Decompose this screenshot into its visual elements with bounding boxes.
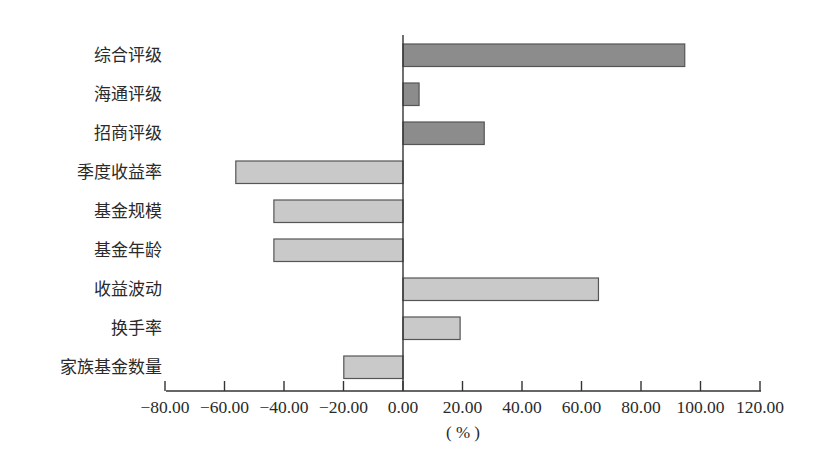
bar-2	[403, 83, 419, 106]
horizontal-bar-chart: 综合评级海通评级招商评级季度收益率基金规模基金年龄收益波动换手率家族基金数量 −…	[0, 0, 826, 465]
bar-7	[403, 278, 598, 301]
category-label: 基金规模	[94, 201, 162, 221]
category-label: 综合评级	[94, 45, 162, 65]
x-tick-label: −20.00	[319, 397, 368, 417]
x-tick-label: −60.00	[200, 397, 249, 417]
x-axis-unit-label: ( % )	[446, 423, 480, 442]
category-label: 家族基金数量	[60, 357, 162, 377]
bar-9	[344, 356, 403, 379]
bar-6	[274, 239, 403, 262]
x-axis-ticks	[165, 381, 760, 391]
category-label: 海通评级	[94, 84, 162, 104]
x-tick-label: 80.00	[621, 397, 661, 417]
bar-1	[403, 44, 685, 67]
x-tick-label: 20.00	[443, 397, 483, 417]
category-label: 收益波动	[94, 279, 162, 299]
category-label: 季度收益率	[77, 162, 162, 182]
bars-group	[236, 44, 685, 379]
category-labels: 综合评级海通评级招商评级季度收益率基金规模基金年龄收益波动换手率家族基金数量	[60, 45, 162, 377]
x-axis-tick-labels: −80.00−60.00−40.00−20.000.0020.0040.0060…	[140, 397, 784, 417]
x-tick-label: 60.00	[562, 397, 602, 417]
category-label: 招商评级	[94, 123, 162, 143]
bar-4	[236, 161, 403, 184]
x-tick-label: −80.00	[140, 397, 189, 417]
bar-8	[403, 317, 460, 340]
x-tick-label: 0.00	[388, 397, 419, 417]
bar-3	[403, 122, 484, 145]
x-tick-label: 100.00	[676, 397, 724, 417]
category-label: 基金年龄	[94, 240, 162, 260]
bar-5	[274, 200, 403, 223]
x-tick-label: −40.00	[259, 397, 308, 417]
category-label: 换手率	[111, 318, 162, 338]
x-tick-label: 120.00	[736, 397, 784, 417]
x-tick-label: 40.00	[502, 397, 542, 417]
